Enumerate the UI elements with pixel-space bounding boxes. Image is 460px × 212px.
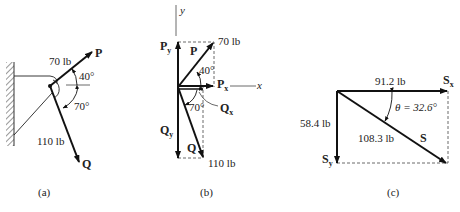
caption-c: (c) <box>387 186 400 199</box>
Sx-magnitude: 91.2 lb <box>375 75 406 87</box>
figure-c: 91.2 lb Sx θ = 32.6° 58.4 lb 108.3 lb S … <box>300 73 454 199</box>
P-label: P <box>190 44 197 58</box>
Q-label: Q <box>187 141 196 155</box>
figure-b: y x Py P 70 lb 40° Px Qx 70° Qy Q 110 lb… <box>160 4 262 199</box>
x-axis-label: x <box>256 79 262 91</box>
theta-label: θ = 32.6° <box>395 101 438 113</box>
Q-magnitude: 110 lb <box>208 157 236 169</box>
angle-40-arc <box>72 69 77 85</box>
Py-label: Py <box>160 39 171 55</box>
Px-label: Px <box>217 77 228 93</box>
Q-angle: 70° <box>74 100 89 112</box>
Q-angle: 70° <box>189 101 204 113</box>
Q-label: Q <box>82 157 91 171</box>
Qy-label: Qy <box>160 123 173 139</box>
Qx-label: Qx <box>220 101 233 117</box>
force-diagram: 70 lb P 40° 70° 110 lb Q (a) y x Py P 70… <box>0 0 460 212</box>
caption-b: (b) <box>200 186 213 199</box>
P-angle: 40° <box>199 64 214 76</box>
wall-hatch <box>6 62 14 146</box>
theta-arc <box>385 92 392 121</box>
P-label: P <box>95 46 102 60</box>
Sy-label: Sy <box>322 152 333 168</box>
P-magnitude: 70 lb <box>49 55 72 67</box>
S-magnitude: 108.3 lb <box>358 132 395 144</box>
Sy-magnitude: 58.4 lb <box>300 117 331 129</box>
P-magnitude: 70 lb <box>218 35 241 47</box>
S-label: S <box>420 131 427 145</box>
figure-a: 70 lb P 40° 70° 110 lb Q (a) <box>6 46 102 199</box>
y-axis-label: y <box>179 4 185 16</box>
Q-magnitude: 110 lb <box>37 135 65 147</box>
Sx-label: Sx <box>443 73 454 89</box>
P-angle: 40° <box>79 70 94 82</box>
caption-a: (a) <box>38 186 51 199</box>
